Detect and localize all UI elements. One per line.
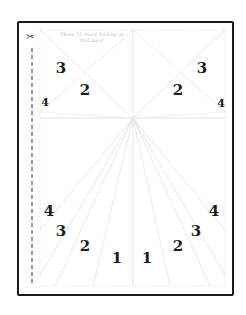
fold-number-top-right-2: 2 xyxy=(173,83,183,98)
instruction-line-2: fold layer xyxy=(52,37,132,43)
fold-number-top-left-3: 3 xyxy=(56,61,66,76)
instruction-text: Photo 11 more folding as fold layer xyxy=(52,31,132,43)
fold-guide-lines xyxy=(0,0,246,315)
fold-number-top-right-4: 4 xyxy=(217,98,225,109)
fold-number-top-left-4: 4 xyxy=(41,97,49,108)
fold-number-bottom-left-3: 3 xyxy=(56,224,66,239)
fold-number-bottom-left-4: 4 xyxy=(44,204,54,219)
fold-number-bottom-right-3: 3 xyxy=(191,224,201,239)
scissors-icon: ✂ xyxy=(26,32,34,42)
fold-number-bottom-right-4: 4 xyxy=(209,204,219,219)
fold-number-top-left-2: 2 xyxy=(80,83,90,98)
fold-number-bottom-right-2: 2 xyxy=(173,239,183,254)
fold-number-bottom-left-2: 2 xyxy=(80,239,90,254)
fold-number-bottom-right-1: 1 xyxy=(142,251,152,266)
fold-number-top-right-3: 3 xyxy=(197,61,207,76)
fold-number-bottom-left-1: 1 xyxy=(112,251,122,266)
